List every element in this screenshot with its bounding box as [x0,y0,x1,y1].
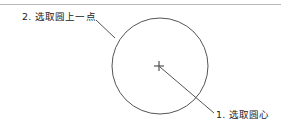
label-select-point-on-circle: 2. 选取圆上一点 [22,11,96,23]
leader-line-point [96,20,115,38]
label-select-circle-center: 1. 选取圆心 [216,109,269,121]
